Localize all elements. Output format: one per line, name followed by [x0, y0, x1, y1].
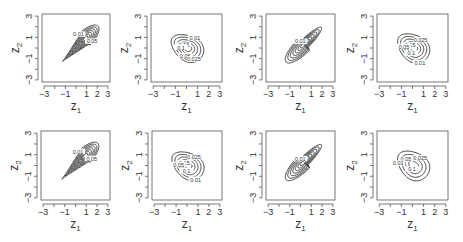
- x-axis: −3−1123z1: [38, 204, 110, 233]
- x-axis-label: z1: [181, 99, 192, 115]
- y-axis-label: z2: [117, 42, 133, 53]
- x-axis-label: z1: [182, 217, 193, 233]
- y-axis-label: z2: [7, 160, 23, 171]
- y-axis-label: z2: [232, 42, 248, 53]
- y-tick-label: −1: [24, 53, 34, 63]
- x-tick-label: 2: [320, 89, 325, 99]
- y-axis-label: z2: [343, 160, 359, 171]
- y-axis-label: z2: [8, 42, 24, 53]
- x-tick-label: 2: [95, 89, 100, 99]
- y-tick-label: 3: [248, 14, 258, 19]
- y-tick-label: −1: [248, 53, 258, 63]
- x-tick-label: 1: [309, 89, 314, 99]
- x-tick-label: 2: [320, 207, 325, 217]
- x-tick-label: −1: [60, 89, 70, 99]
- contour-label: 0.025: [414, 37, 428, 43]
- x-tick-label: −3: [263, 89, 273, 99]
- contour-panel-r2c2: 0.0250.10.150.050.01−3−1123z1−3−113z2: [118, 131, 222, 233]
- x-axis: −3−1123z1: [374, 86, 448, 115]
- y-axis: −3−113z2: [7, 131, 37, 203]
- x-tick-label: 1: [84, 89, 89, 99]
- contour-label: 0.01: [414, 60, 425, 66]
- x-axis-label: z1: [71, 99, 82, 115]
- y-tick-label: 3: [248, 131, 258, 136]
- x-axis: −3−1123z1: [263, 86, 335, 115]
- x-axis: −3−1123z1: [39, 86, 110, 115]
- contour-label: 0.05: [86, 156, 97, 162]
- contour-label: 0.01: [73, 149, 84, 155]
- figure-canvas: 0.010.05−3−1123z1−3−113z20.010.050.150.1…: [0, 0, 463, 242]
- x-tick-label: 3: [105, 207, 110, 217]
- y-axis: −3−113z2: [117, 14, 147, 85]
- x-tick-label: −1: [285, 207, 295, 217]
- contour-panel-r1c4: 0.0250.10.150.050.01−3−1123z1−3−113z2: [343, 14, 448, 115]
- x-tick-label: −3: [263, 207, 273, 217]
- x-tick-label: 3: [330, 207, 335, 217]
- y-tick-label: −1: [359, 53, 369, 63]
- y-tick-label: 3: [133, 14, 143, 19]
- y-tick-label: −3: [359, 75, 369, 85]
- y-tick-label: −3: [24, 75, 34, 85]
- y-tick-label: −3: [134, 193, 144, 203]
- x-tick-label: 1: [309, 207, 314, 217]
- x-tick-label: −1: [285, 89, 295, 99]
- y-axis-label: z2: [118, 160, 134, 171]
- contour-label: 0.1: [408, 166, 416, 172]
- y-axis: −3−113z2: [232, 131, 262, 203]
- contour-lines: 0.010.050.150.10.025: [171, 35, 204, 63]
- y-tick-label: 3: [24, 14, 34, 19]
- y-axis: −3−113z2: [118, 131, 148, 203]
- x-tick-label: −3: [374, 89, 384, 99]
- x-tick-label: 1: [421, 207, 426, 217]
- x-tick-label: 2: [206, 89, 211, 99]
- x-tick-label: 3: [105, 89, 110, 99]
- contour-panel-r2c3: 0.01−3−1123z1−3−113z2: [232, 131, 335, 233]
- y-tick-label: −3: [23, 193, 33, 203]
- contour-lines: 0.0250.10.050.01: [391, 151, 430, 181]
- contour-label: 0.01: [295, 156, 306, 162]
- contour-label: 0.05: [399, 44, 410, 50]
- contour-label: 0.05: [173, 162, 184, 168]
- contour-panel-r1c3: 0.01−3−1123z1−3−113z2: [232, 14, 335, 115]
- y-tick-label: −1: [134, 171, 144, 181]
- x-tick-label: −1: [60, 207, 70, 217]
- contour-lines: 0.010.05: [62, 142, 99, 179]
- contour-lines: 0.0250.10.150.050.01: [397, 34, 430, 66]
- contour-lines: 0.010.05: [63, 25, 100, 62]
- x-tick-label: 3: [330, 89, 335, 99]
- x-tick-label: 1: [84, 207, 89, 217]
- contour-label: 0.01: [393, 160, 404, 166]
- x-tick-label: −1: [396, 89, 406, 99]
- x-tick-label: 2: [206, 207, 211, 217]
- contour-panel-r2c1: 0.010.05−3−1123z1−3−113z2: [7, 131, 110, 233]
- y-axis-label: z2: [232, 160, 248, 171]
- x-tick-label: 2: [432, 89, 437, 99]
- y-tick-label: 1: [133, 35, 143, 40]
- y-tick-label: −3: [248, 193, 258, 203]
- contour-lines: 0.01: [285, 144, 321, 180]
- x-tick-label: −3: [149, 207, 159, 217]
- contour-label: 0.01: [295, 38, 306, 44]
- contour-label: 0.01: [190, 177, 201, 183]
- y-axis: −3−113z2: [8, 14, 38, 85]
- y-axis: −3−113z2: [343, 14, 373, 85]
- contour-label: 0.01: [190, 35, 201, 41]
- y-axis-label: z2: [343, 42, 359, 53]
- contour-label: 0.1: [177, 45, 185, 51]
- contour-label: 0.01: [73, 31, 84, 37]
- x-tick-label: 3: [443, 207, 448, 217]
- x-axis-label: z1: [407, 99, 418, 115]
- y-tick-label: 1: [24, 35, 34, 40]
- x-axis: −3−1123z1: [263, 204, 335, 233]
- x-axis-label: z1: [295, 99, 306, 115]
- x-tick-label: −3: [38, 207, 48, 217]
- x-tick-label: −1: [396, 207, 406, 217]
- contour-panel-r1c2: 0.010.050.150.10.025−3−1123z1−3−113z2: [117, 14, 222, 115]
- contour-panel-r2c4: 0.0250.10.050.01−3−1123z1−3−113z2: [343, 131, 448, 233]
- y-axis: −3−113z2: [343, 131, 373, 203]
- contour-label: 0.1: [407, 50, 415, 56]
- y-tick-label: −3: [248, 75, 258, 85]
- y-tick-label: 3: [359, 14, 369, 19]
- x-tick-label: −3: [148, 89, 158, 99]
- contour-label: 0.025: [187, 56, 201, 62]
